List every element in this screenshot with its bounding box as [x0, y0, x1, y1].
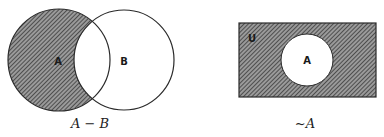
universe-label: U: [248, 33, 256, 44]
difference-diagram: A B A − B: [8, 9, 174, 131]
set-a-label: A: [303, 55, 311, 66]
complement-caption: ~A: [295, 116, 315, 131]
difference-caption: A − B: [70, 116, 109, 131]
venn-diagrams: A B A − B U A ~A: [0, 0, 384, 137]
set-a-label: A: [54, 56, 62, 67]
set-b-label: B: [120, 56, 128, 67]
complement-diagram: U A ~A: [239, 23, 376, 131]
